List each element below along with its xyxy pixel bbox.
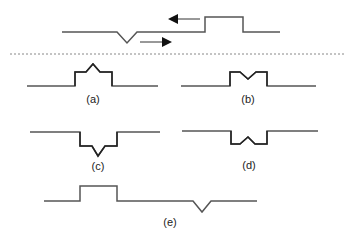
wave-diagram	[0, 0, 352, 241]
top-wave	[62, 17, 280, 43]
label-a: (a)	[86, 93, 99, 105]
label-d: (d)	[242, 159, 255, 171]
wave-e	[44, 186, 257, 212]
right-arrow	[140, 37, 172, 47]
label-b: (b)	[241, 93, 254, 105]
label-c: (c)	[92, 160, 105, 172]
wave-d	[182, 131, 318, 144]
label-e: (e)	[163, 216, 176, 228]
wave-a	[27, 64, 158, 86]
left-arrow	[168, 14, 200, 24]
